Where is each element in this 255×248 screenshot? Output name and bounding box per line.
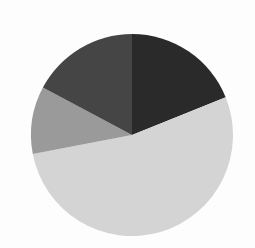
pie-slices <box>31 34 233 236</box>
pie-chart <box>0 0 255 248</box>
